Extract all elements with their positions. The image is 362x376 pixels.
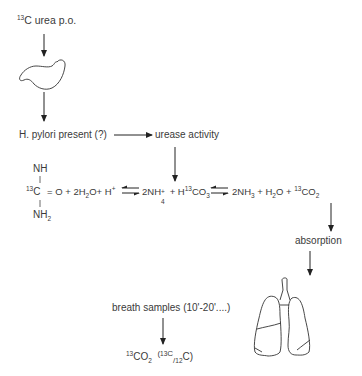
superscript: + [161, 189, 165, 196]
stomach-icon [20, 60, 66, 89]
lhs-text: = O + 2H [47, 186, 86, 197]
urea-nh: NH [33, 164, 47, 174]
isotope-12: 12 [175, 357, 182, 364]
absorption-label: absorption [295, 236, 342, 246]
mid-text: CO [192, 186, 206, 197]
rhs-text: O + [276, 186, 294, 197]
subscript: 2 [148, 357, 152, 364]
lungs-icon [254, 278, 310, 356]
urease-label: urease activity [155, 130, 219, 140]
rhs-text: 2NH [232, 186, 251, 197]
breath-samples-label: breath samples (10'-20'....) [112, 303, 230, 313]
mid-text: + H [167, 186, 185, 197]
urea-carbon: 13C [26, 186, 40, 197]
c-text: C) [183, 351, 194, 362]
equilibrium-arrows-1 [121, 186, 140, 196]
carbon-c: C [33, 186, 40, 197]
nh-text: NH [33, 209, 47, 220]
start-label: 13C urea p.o. [17, 15, 76, 26]
urea-nh2: NH2 [33, 210, 51, 223]
superscript: + [112, 185, 116, 192]
mid-text: 2NH [142, 186, 161, 197]
start-text: C urea p.o. [24, 14, 76, 26]
hpylori-label: H. pylori present (?) [19, 130, 107, 140]
rhs-text: + H [255, 186, 273, 197]
subscript: 3 [206, 192, 210, 199]
lhs-text: O+ H [89, 186, 111, 197]
reaction-rhs: 2NH3 + H2O + 13CO2 [232, 186, 319, 200]
equilibrium-arrows-2 [210, 186, 229, 196]
reaction-middle: 2NH+4 + H13CO3 [142, 186, 210, 200]
result-label: 13CO2 (13C/12C) [126, 350, 193, 365]
co-text: CO [133, 351, 148, 362]
rhs-text: CO [301, 186, 315, 197]
reaction-lhs: = O + 2H2O+ H+ [47, 186, 115, 200]
subscript: 2 [47, 215, 51, 222]
subscript: 4 [161, 199, 165, 206]
subscript: 2 [316, 192, 320, 199]
superscript: 13 [185, 185, 192, 192]
